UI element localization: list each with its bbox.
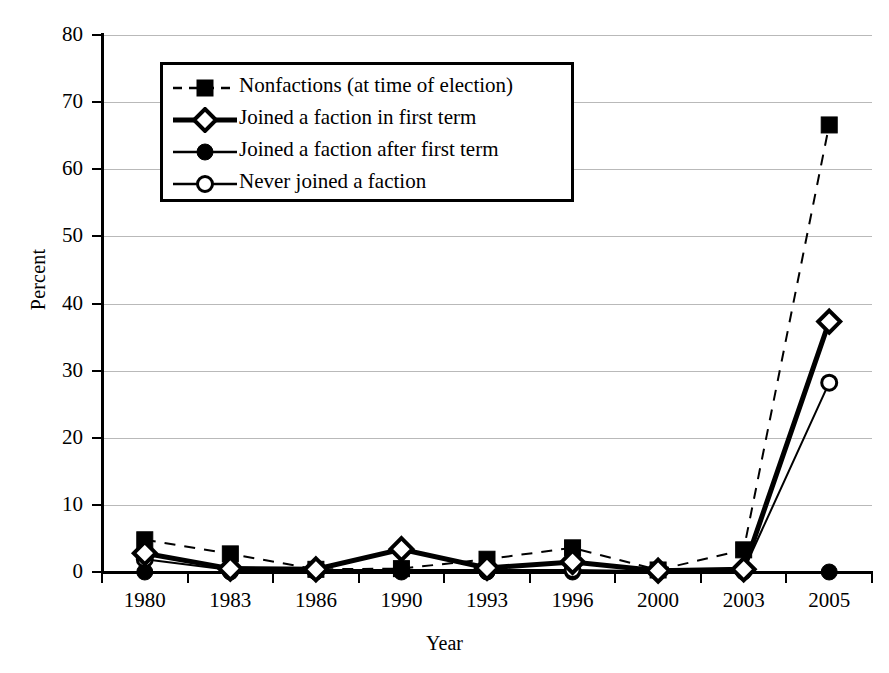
legend-label: Nonfactions (at time of election) <box>239 75 513 99</box>
solid-filled-circle-key <box>171 139 239 163</box>
line-chart-figure: Percent 01020304050607080 19801983198619… <box>0 0 889 673</box>
thick-open-diamond-key <box>171 107 239 131</box>
legend-label: Never joined a faction <box>239 171 426 195</box>
series-3 <box>137 375 836 579</box>
dashed-filled-square-key <box>171 75 239 99</box>
solid-open-circle-key <box>171 171 239 195</box>
legend-item-2[interactable]: Joined a faction after first term <box>163 135 571 167</box>
x-axis-title: Year <box>0 632 889 655</box>
legend-item-3[interactable]: Never joined a faction <box>163 167 571 199</box>
legend-item-0[interactable]: Nonfactions (at time of election) <box>163 71 571 103</box>
legend-label: Joined a faction after first term <box>239 139 498 163</box>
legend-box: Nonfactions (at time of election) Joined… <box>160 62 574 202</box>
series-1 <box>134 311 840 582</box>
legend-label: Joined a faction in first term <box>239 107 476 131</box>
legend-item-1[interactable]: Joined a faction in first term <box>163 103 571 135</box>
